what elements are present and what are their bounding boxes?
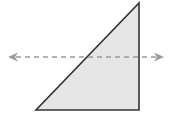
geometry-diagram (0, 0, 170, 119)
right-triangle (36, 3, 139, 110)
